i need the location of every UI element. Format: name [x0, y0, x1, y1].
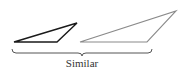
similar-triangles-diagram: Similar [0, 0, 185, 73]
large-triangle [80, 11, 176, 42]
similar-caption: Similar [52, 57, 112, 69]
small-triangle [14, 23, 77, 42]
grouping-brace [12, 49, 152, 56]
